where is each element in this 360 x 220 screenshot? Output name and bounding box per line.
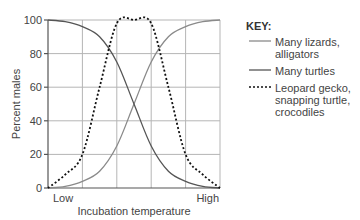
x-axis-title: Incubation temperature (77, 205, 190, 217)
legend-label: Leopard gecko, (275, 82, 351, 94)
x-label-low: Low (53, 192, 73, 204)
legend-label: Many lizards, (275, 36, 340, 48)
y-tick-0: 0 (36, 182, 42, 194)
y-tick-20: 20 (30, 148, 42, 160)
dashed-line-icon (249, 82, 271, 91)
legend-label: Many turtles (275, 65, 335, 77)
series-line-1 (48, 20, 220, 188)
solid-line-dark-icon (249, 65, 271, 74)
y-tick-40: 40 (30, 115, 42, 127)
y-tick-60: 60 (30, 81, 42, 93)
y-tick-100: 100 (24, 14, 42, 26)
legend-label: crocodiles (275, 106, 351, 118)
y-axis-title: Percent males (10, 68, 22, 139)
legend-label: alligators (275, 48, 340, 60)
y-tick-80: 80 (30, 48, 42, 60)
data-series (48, 17, 220, 188)
legend-item-lizards: Many lizards, alligators (246, 36, 360, 60)
legend-title: KEY: (246, 20, 360, 32)
solid-line-light-icon (249, 36, 271, 45)
axes (44, 20, 220, 188)
legend: KEY: Many lizards, alligators Many turtl… (246, 20, 360, 123)
legend-item-gecko: Leopard gecko, snapping turtle, crocodil… (246, 82, 360, 118)
x-label-high: High (196, 192, 219, 204)
legend-item-turtles: Many turtles (246, 65, 360, 77)
legend-label: snapping turtle, (275, 94, 351, 106)
